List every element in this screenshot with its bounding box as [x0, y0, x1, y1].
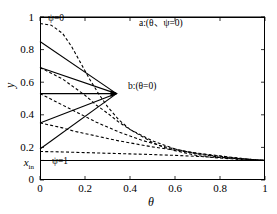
series-decay-4: [40, 123, 265, 160]
y-tick-label-x-in: xin: [0, 156, 34, 171]
series-ray-1: [40, 41, 117, 93]
y-tick-label-0p2: 0.2: [0, 141, 34, 153]
series-decay-1: [40, 24, 265, 161]
x-tick-label-1: 1: [245, 182, 277, 194]
y-tick-label-0p6: 0.6: [0, 76, 34, 88]
x-tick-label-0: 0: [20, 182, 60, 194]
series-ray-5: [40, 94, 117, 149]
x-tick-label-0p6: 0.6: [155, 182, 195, 194]
x-tick-label-0p4: 0.4: [110, 182, 150, 194]
chart-svg: [40, 17, 265, 180]
series-decay-3: [40, 94, 265, 161]
x-axis-label: θ: [148, 195, 154, 210]
x-tick-label-0p8: 0.8: [200, 182, 240, 194]
convergence-arrow-icon: [111, 90, 119, 97]
series-ray-4: [40, 94, 117, 123]
plot-area: [40, 17, 265, 180]
y-tick-label-1: 1: [0, 11, 34, 23]
y-tick-label-0p8: 0.8: [0, 43, 34, 55]
figure-container: y 1 0.8 0.6 0.4 0.2 0 xin 0 0.2 0.4 0.6 …: [0, 0, 277, 214]
y-tick-label-0p4: 0.4: [0, 108, 34, 120]
x-in-subscript: in: [29, 163, 34, 171]
x-tick-label-0p2: 0.2: [65, 182, 105, 194]
